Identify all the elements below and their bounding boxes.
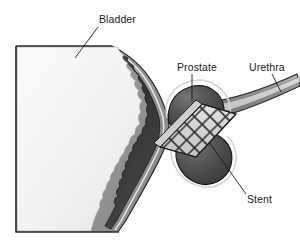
label-urethra: Urethra [249, 61, 285, 73]
illustration-canvas: Bladder Prostate Urethra Stent [0, 0, 300, 244]
anatomy-diagram: Bladder Prostate Urethra Stent [0, 0, 300, 244]
bladder-structure [16, 46, 169, 232]
label-prostate: Prostate [177, 61, 217, 73]
label-bladder: Bladder [99, 13, 136, 25]
label-stent: Stent [247, 193, 272, 205]
